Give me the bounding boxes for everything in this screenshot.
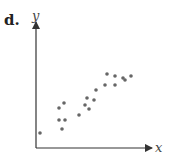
data-point [103, 83, 107, 87]
data-point [77, 113, 81, 117]
data-point [83, 103, 87, 107]
x-axis-label: x [155, 140, 163, 154]
data-point [92, 98, 96, 102]
data-point [60, 127, 64, 131]
data-point [129, 74, 133, 78]
data-point [38, 131, 42, 135]
scatter-chart: x y [0, 0, 179, 154]
y-axis-label: y [31, 8, 40, 23]
data-point [123, 78, 127, 82]
data-point [113, 83, 117, 87]
data-point [87, 107, 91, 111]
data-points [38, 72, 133, 135]
data-point [105, 72, 109, 76]
data-point [62, 101, 66, 105]
data-point [63, 118, 67, 122]
data-point [113, 74, 117, 78]
data-point [85, 96, 89, 100]
data-point [57, 106, 61, 110]
data-point [94, 88, 98, 92]
data-point [57, 118, 61, 122]
